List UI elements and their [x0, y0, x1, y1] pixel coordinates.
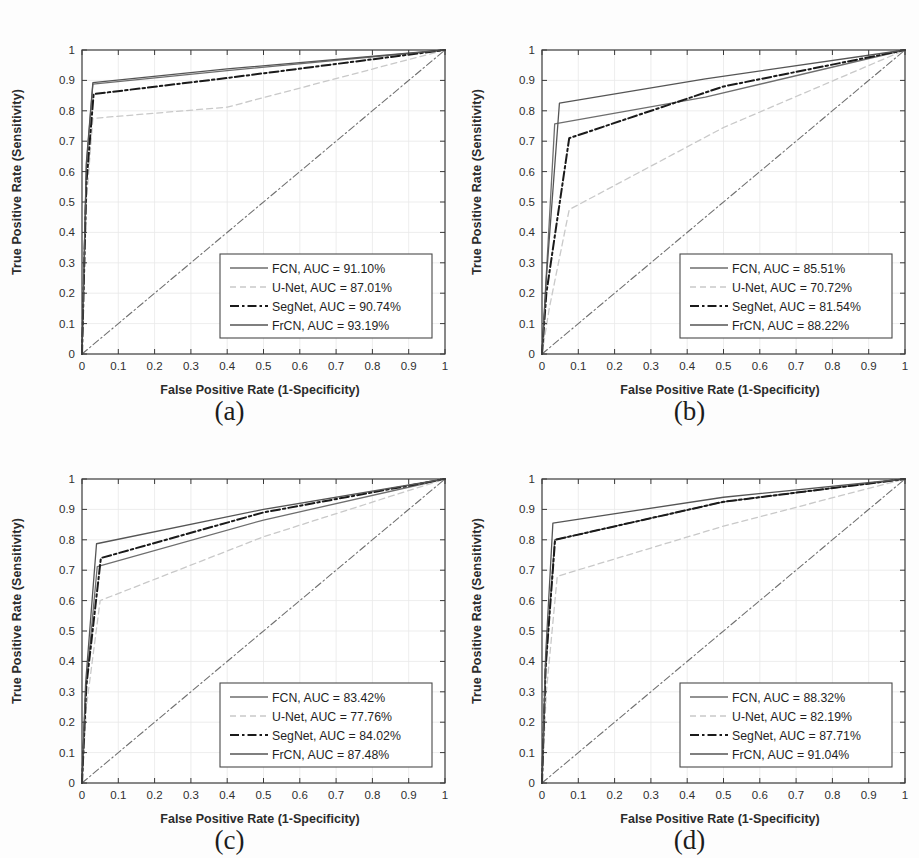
legend-a[interactable]: FCN, AUC = 91.10%U-Net, AUC = 87.01%SegN… [220, 254, 432, 338]
y-tick-label: 0.5 [519, 196, 535, 208]
y-tick-label: 0.9 [59, 74, 75, 86]
x-tick-label: 1 [902, 789, 908, 801]
legend-label-u-net: U-Net, AUC = 87.01% [272, 281, 392, 295]
y-tick-label: 0 [529, 348, 535, 360]
x-tick-label: 1 [442, 789, 448, 801]
y-tick-label: 0.6 [519, 166, 535, 178]
y-tick-label: 0.9 [519, 503, 535, 515]
x-tick-label: 0 [539, 789, 545, 801]
y-tick-label: 0.8 [519, 105, 535, 117]
y-tick-label: 1 [69, 44, 75, 56]
x-tick-label: 0.2 [607, 789, 623, 801]
x-tick-label: 0.7 [328, 360, 344, 372]
x-tick-label: 0.5 [256, 789, 272, 801]
legend-label-fcn: FCN, AUC = 85.51% [732, 262, 845, 276]
x-tick-label: 0.1 [110, 789, 126, 801]
legend-label-frcn: FrCN, AUC = 88.22% [732, 319, 849, 333]
y-tick-label: 1 [529, 44, 535, 56]
x-tick-label: 0.8 [824, 360, 840, 372]
caption-b: (b) [460, 396, 919, 427]
x-tick-label: 0.9 [401, 360, 417, 372]
y-tick-label: 0.7 [519, 135, 535, 147]
x-tick-label: 0.8 [824, 789, 840, 801]
legend-label-u-net: U-Net, AUC = 82.19% [732, 710, 852, 724]
plot-area-a: 000.10.10.20.20.30.30.40.40.50.50.60.60.… [0, 0, 459, 429]
x-tick-label: 0.3 [183, 789, 199, 801]
x-tick-label: 0.2 [607, 360, 623, 372]
x-tick-label: 0.2 [147, 789, 163, 801]
y-tick-label: 0.3 [519, 686, 535, 698]
y-tick-label: 0.5 [59, 625, 75, 637]
x-tick-label: 0.1 [570, 789, 586, 801]
roc-plot-d: 000.10.10.20.20.30.30.40.40.50.50.60.60.… [460, 429, 919, 858]
y-tick-label: 0.2 [519, 287, 535, 299]
y-tick-label: 0.6 [59, 166, 75, 178]
x-tick-label: 0.6 [752, 360, 768, 372]
y-tick-label: 0.4 [59, 655, 76, 667]
legend-label-fcn: FCN, AUC = 88.32% [732, 691, 845, 705]
y-tick-label: 0 [69, 777, 75, 789]
x-tick-label: 0.5 [716, 360, 732, 372]
y-tick-label: 0.4 [519, 226, 536, 238]
legend-c[interactable]: FCN, AUC = 83.42%U-Net, AUC = 77.76%SegN… [220, 683, 432, 767]
legend-b[interactable]: FCN, AUC = 85.51%U-Net, AUC = 70.72%SegN… [680, 254, 892, 338]
legend-label-fcn: FCN, AUC = 91.10% [272, 262, 385, 276]
legend-label-segnet: SegNet, AUC = 90.74% [272, 300, 401, 314]
y-tick-label: 0.2 [59, 716, 75, 728]
x-axis-label-c: False Positive Rate (1-Specificity) [60, 812, 460, 826]
y-tick-label: 0.1 [59, 747, 75, 759]
y-tick-label: 0.2 [519, 716, 535, 728]
y-tick-label: 0.8 [519, 534, 535, 546]
x-tick-label: 0.5 [256, 360, 272, 372]
y-tick-label: 1 [69, 473, 75, 485]
legend-label-segnet: SegNet, AUC = 87.71% [732, 729, 861, 743]
x-tick-label: 0.6 [752, 789, 768, 801]
legend-label-frcn: FrCN, AUC = 87.48% [272, 748, 389, 762]
legend-d[interactable]: FCN, AUC = 88.32%U-Net, AUC = 82.19%SegN… [680, 683, 892, 767]
x-tick-label: 1 [442, 360, 448, 372]
legend-label-frcn: FrCN, AUC = 93.19% [272, 319, 389, 333]
legend-label-u-net: U-Net, AUC = 77.76% [272, 710, 392, 724]
y-tick-label: 0.7 [59, 564, 75, 576]
y-tick-label: 0.3 [59, 257, 75, 269]
x-tick-label: 0.5 [716, 789, 732, 801]
y-tick-label: 1 [529, 473, 535, 485]
y-axis-label-c: True Positive Rate (Sensitivity) [10, 441, 32, 781]
y-tick-label: 0.5 [519, 625, 535, 637]
x-axis-label-b: False Positive Rate (1-Specificity) [520, 383, 919, 397]
y-tick-label: 0.8 [59, 534, 75, 546]
x-tick-label: 0 [79, 360, 85, 372]
y-tick-label: 0.3 [519, 257, 535, 269]
x-axis-label-d: False Positive Rate (1-Specificity) [520, 812, 919, 826]
x-tick-label: 0.3 [183, 360, 199, 372]
panel-a: 000.10.10.20.20.30.30.40.40.50.50.60.60.… [0, 0, 459, 429]
caption-d: (d) [460, 825, 919, 856]
y-axis-label-b: True Positive Rate (Sensitivity) [470, 12, 492, 352]
panel-b: 000.10.10.20.20.30.30.40.40.50.50.60.60.… [460, 0, 919, 429]
y-tick-label: 0.1 [519, 318, 535, 330]
plot-area-d: 000.10.10.20.20.30.30.40.40.50.50.60.60.… [460, 429, 919, 858]
x-tick-label: 0.6 [292, 789, 308, 801]
x-tick-label: 0.8 [364, 360, 380, 372]
y-tick-label: 0.1 [59, 318, 75, 330]
caption-c: (c) [0, 825, 459, 856]
x-tick-label: 0.9 [861, 360, 877, 372]
x-tick-label: 0.4 [679, 789, 696, 801]
x-tick-label: 0.7 [788, 360, 804, 372]
y-tick-label: 0.9 [519, 74, 535, 86]
x-tick-label: 0.7 [328, 789, 344, 801]
y-tick-label: 0 [69, 348, 75, 360]
roc-figure: 000.10.10.20.20.30.30.40.40.50.50.60.60.… [0, 0, 919, 858]
x-tick-label: 0.4 [219, 360, 236, 372]
y-tick-label: 0.4 [59, 226, 76, 238]
x-tick-label: 0.3 [643, 360, 659, 372]
plot-area-b: 000.10.10.20.20.30.30.40.40.50.50.60.60.… [460, 0, 919, 429]
caption-a: (a) [0, 396, 459, 427]
x-tick-label: 0.6 [292, 360, 308, 372]
y-tick-label: 0.7 [519, 564, 535, 576]
roc-plot-b: 000.10.10.20.20.30.30.40.40.50.50.60.60.… [460, 0, 919, 429]
y-tick-label: 0.2 [59, 287, 75, 299]
x-tick-label: 1 [902, 360, 908, 372]
y-tick-label: 0.7 [59, 135, 75, 147]
y-tick-label: 0.1 [519, 747, 535, 759]
